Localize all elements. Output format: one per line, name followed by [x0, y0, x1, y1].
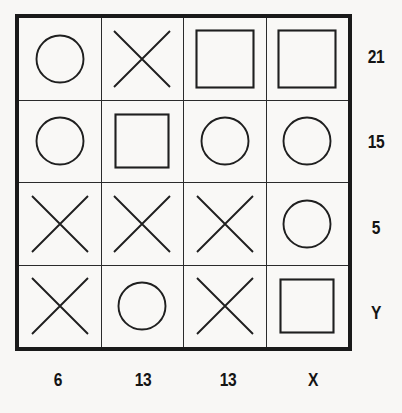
grid-cell-r3c1[interactable] — [19, 183, 101, 265]
grid-cell-r2c1[interactable] — [19, 101, 101, 183]
cross-icon — [111, 193, 173, 255]
circle-icon — [29, 28, 91, 90]
cross-icon — [29, 275, 91, 337]
grid-cell-r4c2[interactable] — [101, 266, 184, 348]
circle-icon — [29, 110, 91, 172]
col-label-3: 13 — [203, 370, 252, 389]
grid-row — [19, 100, 348, 183]
grid-cell-r2c4[interactable] — [266, 101, 349, 183]
grid-cell-r1c2[interactable] — [101, 18, 184, 100]
shape-grid — [15, 14, 352, 351]
grid-cell-r3c3[interactable] — [183, 183, 266, 265]
circle-icon — [194, 110, 256, 172]
row-label-4: Y — [360, 303, 393, 322]
grid-cell-r4c4[interactable] — [266, 266, 349, 348]
cross-icon — [194, 193, 256, 255]
square-icon — [276, 275, 338, 337]
grid-cell-r1c3[interactable] — [183, 18, 266, 100]
circle-icon — [111, 275, 173, 337]
cross-icon — [29, 193, 91, 255]
grid-cell-r3c4[interactable] — [266, 183, 349, 265]
col-label-2: 13 — [118, 370, 167, 389]
row-label-3: 5 — [360, 218, 393, 237]
grid-row — [19, 182, 348, 265]
square-icon — [276, 28, 338, 90]
circle-icon — [276, 110, 338, 172]
grid-cell-r4c3[interactable] — [183, 266, 266, 348]
square-icon — [111, 110, 173, 172]
grid-cell-r2c3[interactable] — [183, 101, 266, 183]
grid-row — [19, 18, 348, 100]
row-label-2: 15 — [360, 132, 393, 151]
grid-cell-r3c2[interactable] — [101, 183, 184, 265]
square-icon — [194, 28, 256, 90]
grid-cell-r4c1[interactable] — [19, 266, 101, 348]
grid-cell-r1c4[interactable] — [266, 18, 349, 100]
grid-row — [19, 265, 348, 348]
circle-icon — [276, 193, 338, 255]
grid-rows — [19, 18, 348, 347]
col-label-1: 6 — [33, 370, 82, 389]
cross-icon — [194, 275, 256, 337]
puzzle-page: 21 15 5 Y 6 13 13 X — [0, 0, 402, 413]
cross-icon — [111, 28, 173, 90]
row-label-1: 21 — [360, 47, 393, 66]
grid-cell-r1c1[interactable] — [19, 18, 101, 100]
grid-cell-r2c2[interactable] — [101, 101, 184, 183]
col-label-4: X — [288, 370, 337, 389]
